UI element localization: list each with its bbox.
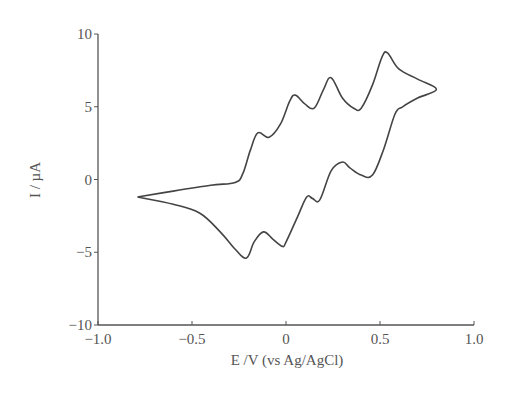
x-tick-label: −1.0	[84, 331, 111, 347]
x-tick-label: 0.5	[371, 331, 390, 347]
x-axis-label: E /V (vs Ag/AgCl)	[231, 352, 344, 369]
cv-curve	[138, 52, 437, 258]
y-tick-label: −5	[76, 244, 92, 260]
x-tick-label: 0	[282, 331, 290, 347]
y-ticks: 1050−5−10	[69, 26, 98, 333]
x-tick-label: 1.0	[465, 331, 484, 347]
y-tick-label: 0	[85, 172, 93, 188]
y-tick-label: 10	[77, 26, 92, 42]
x-tick-label: −0.5	[178, 331, 205, 347]
y-axis-label: I / µA	[27, 162, 43, 198]
cv-chart: 1050−5−10 −1.0−0.500.51.0 E /V (vs Ag/Ag…	[0, 0, 521, 410]
y-tick-label: 5	[85, 99, 93, 115]
